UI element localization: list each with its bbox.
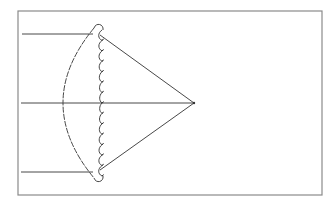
- top-converging-ray: [100, 35, 194, 103]
- diagram-canvas: [0, 0, 335, 203]
- lens-bottom-edge: [94, 176, 103, 182]
- converging-rays: [100, 35, 194, 170]
- focal-point: [193, 102, 195, 104]
- lens-top-edge: [94, 24, 103, 30]
- bottom-converging-ray: [100, 103, 194, 170]
- incoming-rays: [21, 34, 194, 172]
- lens-ray-diagram: [0, 0, 335, 203]
